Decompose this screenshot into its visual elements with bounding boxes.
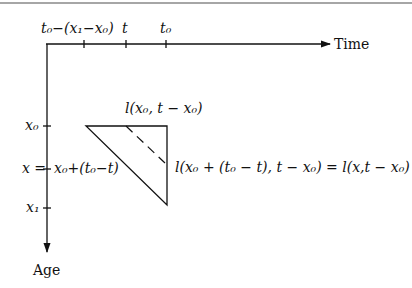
tick-label-x1: x₁ xyxy=(26,199,40,215)
dashed-line xyxy=(126,126,165,163)
tick-label-t0: t₀ xyxy=(160,20,172,36)
right-edge-label: l(x₀ + (t₀ − t), t − x₀) = l(x,t − x₀) xyxy=(175,159,410,175)
tick-label-t0-minus: t₀−(x₁−x₀) xyxy=(41,20,114,36)
age-axis-label: Age xyxy=(32,262,60,278)
time-axis-label: Time xyxy=(334,36,369,52)
lexis-diagram: t₀−(x₁−x₀) t t₀ Time x₀ x = x₀+(t₀−t) x₁… xyxy=(0,0,412,288)
tick-label-t: t xyxy=(122,20,128,36)
top-edge-label: l(x₀, t − x₀) xyxy=(125,100,203,116)
tick-label-x-eq: x = xyxy=(22,160,46,176)
tick-label-x0: x₀ xyxy=(25,117,39,133)
tick-label-x-expr: x₀+(t₀−t) xyxy=(54,160,119,176)
